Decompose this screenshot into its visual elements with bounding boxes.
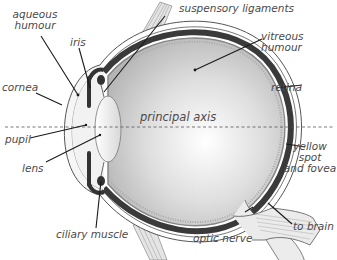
label-aqueous-humour-line2: humour: [10, 20, 60, 30]
label-aqueous-humour-line1: aqueous: [10, 9, 60, 19]
label-pupil: pupil: [5, 134, 31, 144]
label-to-brain: to brain: [293, 221, 334, 231]
label-yellow-spot-line2: spot: [284, 152, 336, 162]
label-yellow-spot-line1: yellow: [284, 141, 336, 151]
label-lens: lens: [22, 163, 44, 173]
label-retina: retina: [271, 82, 302, 92]
label-iris: iris: [70, 37, 86, 47]
eye-diagram: aqueous humour iris suspensory ligaments…: [0, 0, 337, 260]
lens-shape: [95, 96, 121, 162]
label-suspensory-ligaments: suspensory ligaments: [179, 3, 294, 13]
label-optic-nerve: optic nerve: [193, 233, 252, 243]
label-yellow-spot-line3: and fovea: [282, 163, 337, 173]
label-principal-axis: principal axis: [140, 112, 216, 122]
label-vitreous-humour-line2: humour: [261, 42, 302, 52]
label-ciliary-muscle: ciliary muscle: [56, 229, 128, 239]
label-cornea: cornea: [2, 82, 38, 92]
label-vitreous-humour-line1: vitreous: [261, 31, 304, 41]
